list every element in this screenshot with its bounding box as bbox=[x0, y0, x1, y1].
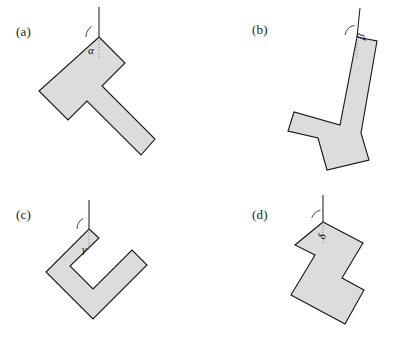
panel-label-d: (d) bbox=[252, 207, 268, 223]
panel-c bbox=[46, 200, 147, 319]
panel-label-c: (c) bbox=[16, 207, 31, 223]
panel-label-b: (b) bbox=[252, 22, 268, 38]
panel-b bbox=[288, 8, 377, 170]
angle-label-gamma: γ bbox=[82, 243, 86, 255]
shape-t-shape-hammer-b bbox=[288, 37, 377, 170]
panel-label-a: (a) bbox=[16, 24, 31, 40]
angle-arc-b bbox=[345, 25, 354, 35]
panel-d bbox=[291, 195, 364, 324]
angle-arc-d bbox=[312, 210, 321, 218]
shape-c-shape-bracket-c bbox=[46, 229, 147, 319]
panel-a bbox=[39, 7, 155, 155]
angle-arc-c bbox=[77, 219, 83, 229]
angle-label-alpha: α bbox=[88, 44, 94, 56]
angle-arc-a bbox=[86, 26, 92, 37]
figure-container: (a) (b) (c) (d) α β γ δ bbox=[0, 0, 400, 354]
shape-t-shape-hammer-a bbox=[39, 37, 155, 155]
shapes-canvas bbox=[0, 0, 400, 354]
